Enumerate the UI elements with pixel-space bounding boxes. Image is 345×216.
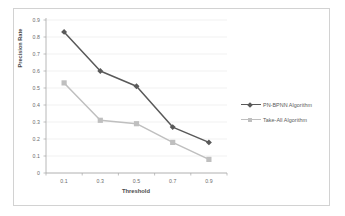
x-axis-tick-label: 0.7 [161,178,185,184]
x-axis-tick-label: 0.3 [88,178,112,184]
legend-item-label: PN-BPNN Algorithm [263,102,312,108]
x-axis-tick-label: 0.5 [125,178,149,184]
y-axis-tick-label: 0.4 [22,102,40,108]
axis-lines-group [44,18,228,176]
data-point-marker [62,80,67,85]
y-axis-tick-label: 0.5 [22,85,40,91]
x-axis-title: Threshold [46,188,226,194]
legend-item-label: Take-All Algorithm [263,117,307,123]
data-point-marker [134,121,139,126]
data-point-marker [170,140,175,145]
y-axis-tick-label: 0.9 [22,17,40,23]
x-axis-tick-label: 0.1 [52,178,76,184]
y-axis-tick-label: 0.8 [22,34,40,40]
data-point-marker [98,118,103,123]
legend-key-icon [241,116,261,123]
data-series-group [61,29,212,162]
y-axis-tick-label: 0.2 [22,136,40,142]
y-axis-tick-label: 0.7 [22,51,40,57]
data-point-marker [206,139,212,145]
y-axis-tick-label: 0.3 [22,119,40,125]
y-axis-tick-label: 0.6 [22,68,40,74]
legend-item[interactable]: PN-BPNN Algorithm [241,101,312,108]
legend-key-icon [241,101,261,108]
legend-item[interactable]: Take-All Algorithm [241,116,307,123]
legend-diamond-marker-icon [247,102,253,108]
y-axis-tick-label: 0 [22,170,40,176]
gridlines-group [46,20,227,173]
data-point-marker [206,157,211,162]
legend-square-marker-icon [248,118,252,122]
x-axis-tick-label: 0.9 [197,178,221,184]
chart-figure: Precision Rate Threshold 0.90.80.70.60.5… [0,0,345,216]
y-axis-tick-label: 0.1 [22,153,40,159]
